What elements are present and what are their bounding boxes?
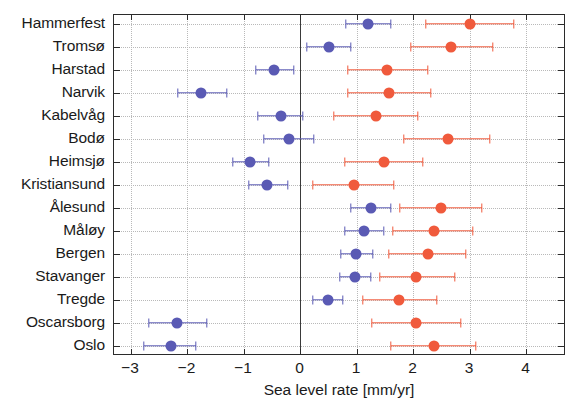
data-point xyxy=(351,248,362,259)
y-axis-tick xyxy=(113,254,120,255)
y-axis-tick-right xyxy=(558,116,565,117)
error-bar-cap xyxy=(410,42,411,51)
y-axis-label: Oslo xyxy=(74,337,105,353)
data-point xyxy=(429,340,440,351)
data-point xyxy=(394,294,405,305)
error-bar-cap xyxy=(392,226,393,235)
data-point xyxy=(324,41,335,52)
y-axis-tick-right xyxy=(558,231,565,232)
error-bar-cap xyxy=(340,249,341,258)
data-point xyxy=(428,225,439,236)
error-bar-cap xyxy=(269,157,270,166)
data-point xyxy=(275,110,286,121)
data-point xyxy=(411,271,422,282)
error-bar-cap xyxy=(370,272,371,281)
error-bar-cap xyxy=(379,272,380,281)
error-bar-cap xyxy=(492,42,493,51)
error-bar-cap xyxy=(460,318,461,327)
y-axis-tick-right xyxy=(558,24,565,25)
error-bar-cap xyxy=(196,341,197,350)
zero-reference-line xyxy=(300,15,301,354)
error-bar-cap xyxy=(430,88,431,97)
error-bar-cap xyxy=(427,65,428,74)
plot-area xyxy=(113,14,565,355)
y-axis-tick xyxy=(113,116,120,117)
x-axis-tick xyxy=(131,349,132,355)
error-bar-cap xyxy=(372,249,373,258)
error-bar-cap xyxy=(313,180,314,189)
data-point xyxy=(464,18,475,29)
grid-line-horizontal xyxy=(114,139,564,140)
y-axis-label: Heimsjø xyxy=(49,153,105,169)
error-bar-cap xyxy=(390,19,391,28)
x-axis-tick-label: −1 xyxy=(234,360,252,376)
error-bar-cap xyxy=(347,88,348,97)
error-bar-cap xyxy=(313,134,314,143)
data-point xyxy=(283,133,294,144)
error-bar-cap xyxy=(303,111,304,120)
y-axis-tick xyxy=(113,139,120,140)
error-bar-cap xyxy=(264,134,265,143)
data-point xyxy=(323,294,334,305)
error-bar-cap xyxy=(473,226,474,235)
x-axis-tick xyxy=(357,349,358,355)
error-bar-cap xyxy=(333,111,334,120)
data-point xyxy=(166,340,177,351)
error-bar-cap xyxy=(426,19,427,28)
data-point xyxy=(442,133,453,144)
y-axis-label: Bergen xyxy=(56,245,105,261)
error-bar-cap xyxy=(346,19,347,28)
error-bar-cap xyxy=(233,157,234,166)
grid-line-horizontal xyxy=(114,231,564,232)
data-point xyxy=(411,317,422,328)
y-axis-label: Tromsø xyxy=(53,38,105,54)
x-axis-tick xyxy=(413,349,414,355)
error-bar-cap xyxy=(287,180,288,189)
y-axis-tick xyxy=(113,300,120,301)
error-bar-cap xyxy=(362,295,363,304)
data-point xyxy=(245,156,256,167)
error-bar-cap xyxy=(399,203,400,212)
error-bar-cap xyxy=(403,134,404,143)
error-bar-cap xyxy=(465,249,466,258)
y-axis-tick xyxy=(113,231,120,232)
y-axis-label: Tregde xyxy=(57,291,105,307)
data-point xyxy=(379,156,390,167)
error-bar-cap xyxy=(417,111,418,120)
x-axis-tick-label: 2 xyxy=(408,360,417,376)
y-axis-tick xyxy=(113,277,120,278)
data-point xyxy=(371,110,382,121)
error-bar-cap xyxy=(206,318,207,327)
error-bar-cap xyxy=(307,42,308,51)
data-point xyxy=(358,225,369,236)
x-axis-tick xyxy=(244,349,245,355)
x-axis-title: Sea level rate [mm/yr] xyxy=(113,381,565,399)
data-point xyxy=(436,202,447,213)
data-point xyxy=(382,64,393,75)
y-axis-tick-right xyxy=(558,162,565,163)
error-bar-cap xyxy=(372,318,373,327)
error-bar-cap xyxy=(348,65,349,74)
error-bar-cap xyxy=(313,295,314,304)
data-point xyxy=(196,87,207,98)
error-bar-cap xyxy=(391,341,392,350)
x-axis-tick-top xyxy=(187,14,188,20)
y-axis-tick-right xyxy=(558,346,565,347)
error-bar-cap xyxy=(344,157,345,166)
sea-level-rate-chart: HammerfestTromsøHarstadNarvikKabelvågBod… xyxy=(0,0,579,404)
error-bar-cap xyxy=(248,180,249,189)
data-point xyxy=(446,41,457,52)
x-axis-tick-label: −2 xyxy=(178,360,196,376)
y-axis-tick xyxy=(113,47,120,48)
x-axis-tick-label: 1 xyxy=(352,360,361,376)
data-point xyxy=(172,317,183,328)
y-axis-tick-right xyxy=(558,70,565,71)
error-bar-cap xyxy=(490,134,491,143)
y-axis-tick-right xyxy=(558,254,565,255)
x-axis-tick-label: 3 xyxy=(465,360,474,376)
x-axis-tick-top xyxy=(131,14,132,20)
x-axis-tick-label: 0 xyxy=(295,360,304,376)
y-axis-label: Kabelvåg xyxy=(41,107,105,123)
error-bar-cap xyxy=(143,341,144,350)
x-axis-tick-top xyxy=(413,14,414,20)
